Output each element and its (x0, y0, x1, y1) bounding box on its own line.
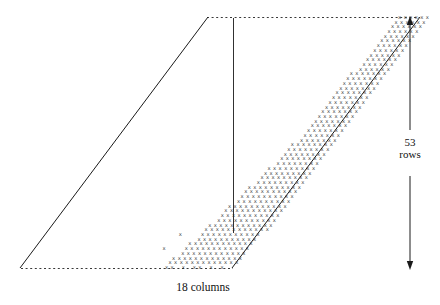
arrow-down-icon (407, 261, 413, 270)
character-plot-figure: xxxxxxxxxxxxxxxxxxxxxxxxxxxxxxxxxxxxxxxx… (0, 0, 440, 305)
arrow-up-icon (407, 16, 413, 25)
left-diagonal-edge (20, 17, 208, 268)
columns-axis-label: 18 columns (138, 281, 268, 293)
rows-axis-label: 53 rows (386, 136, 434, 160)
plot-vector-layer (0, 0, 440, 305)
